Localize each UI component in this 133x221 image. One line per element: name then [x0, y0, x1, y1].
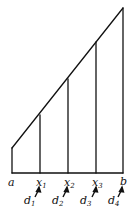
diagram-canvas: a x1 x2 x3 b d1 d2 d3 d4	[0, 0, 133, 221]
label-x3: x3	[92, 176, 103, 190]
label-a: a	[8, 176, 15, 189]
label-d1: d1	[24, 194, 36, 208]
label-x2: x2	[64, 176, 75, 190]
label-d2: d2	[52, 194, 64, 208]
label-b: b	[120, 175, 127, 188]
label-d3: d3	[80, 194, 92, 208]
label-x1: x1	[36, 176, 47, 190]
up-right-arrow-icon	[118, 187, 124, 197]
